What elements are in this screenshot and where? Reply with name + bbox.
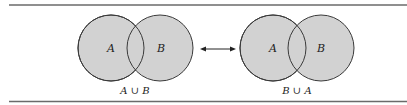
label-a-left: A [106,42,115,55]
venn-left: A B A ∪ B [78,15,193,96]
caption-right: B ∪ A [281,85,311,96]
venn-diagram-figure: A B A ∪ B A B B ∪ A [0,0,407,105]
double-arrow [200,47,236,52]
label-b-right: B [316,42,325,55]
arrowhead-right-icon [230,47,236,52]
label-a-right: A [268,42,277,55]
caption-left: A ∪ B [119,85,149,96]
venn-right: A B B ∪ A [240,15,354,96]
arrowhead-left-icon [200,47,206,52]
label-b-left: B [156,42,165,55]
